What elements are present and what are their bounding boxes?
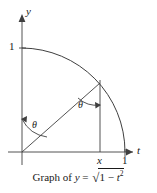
figure-container: y t 1 x 1 θ θ Graph of y = √1 − t2 [0, 0, 157, 193]
y-tick-label-one: 1 [9, 41, 15, 52]
angle-label-theta-origin: θ [32, 120, 37, 130]
t-axis-label: t [137, 145, 140, 156]
caption-prefix: Graph of [33, 171, 75, 183]
caption-radicand: 1 − t2 [98, 168, 124, 183]
caption-radical: √1 − t2 [91, 168, 124, 186]
caption-equals: = [80, 171, 92, 183]
t-tick-label-x: x [97, 155, 102, 166]
unit-circle-arc [22, 48, 125, 152]
figure-graphic [0, 0, 157, 193]
radicand-minus: − [105, 171, 117, 183]
angle-label-theta-point: θ [78, 100, 83, 110]
y-axis-label: y [26, 6, 31, 17]
radicand-exponent: 2 [120, 169, 124, 178]
y-axis-arrowhead [19, 14, 26, 22]
figure-caption: Graph of y = √1 − t2 [0, 168, 157, 186]
t-tick-label-one: 1 [122, 155, 128, 166]
radius-segment [22, 83, 100, 152]
